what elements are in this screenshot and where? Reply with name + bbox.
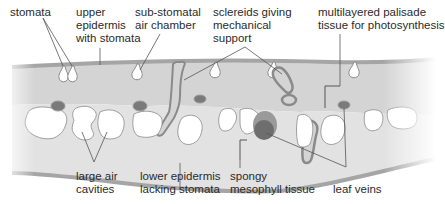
label-palisade-tissue: multilayered palisade tissue for photosy… (318, 6, 445, 32)
label-leaf-veins: leaf veins (333, 183, 382, 196)
label-large-air-cavities: large air cavities (76, 170, 118, 196)
label-sub-stomatal-air-chamber: sub-stomatal air chamber (135, 6, 201, 32)
label-upper-epidermis: upper epidermis with stomata (76, 6, 141, 45)
label-stomata: stomata (10, 6, 51, 19)
label-sclereids: sclereids giving mechanical support (213, 6, 292, 45)
label-lower-epidermis: lower epidermis lacking stomata (140, 170, 221, 196)
label-spongy-mesophyll: spongy mesophyll tissue (230, 170, 315, 196)
